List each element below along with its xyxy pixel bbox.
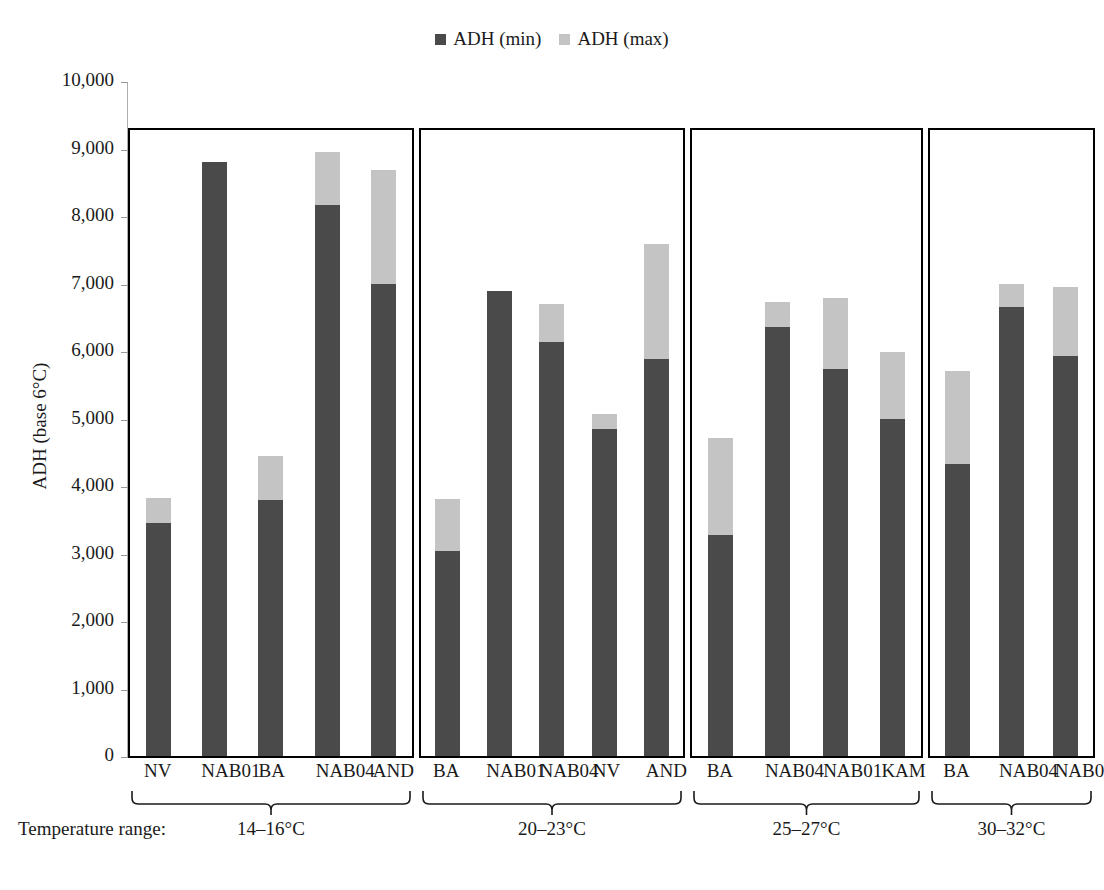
- bar-nab01[interactable]: [202, 162, 227, 756]
- bar-segment-adh-min: [146, 523, 171, 756]
- y-axis-tick-mark: [121, 622, 128, 623]
- y-axis-tick-label: 1,000: [71, 677, 114, 699]
- panel-category-labels: BANAB01NAB04NVAND: [419, 760, 685, 786]
- bar-segment-adh-min: [823, 369, 848, 756]
- y-axis-tick-mark: [121, 555, 128, 556]
- y-axis-tick-mark: [121, 82, 128, 83]
- bar-nab01[interactable]: [1053, 287, 1078, 756]
- x-axis-category-label: NAB01: [1055, 760, 1080, 782]
- temperature-range-caption: Temperature range:: [18, 818, 166, 840]
- bar-segment-adh-max: [539, 304, 564, 342]
- x-axis-category-label: BA: [258, 760, 283, 782]
- y-axis-tick-mark: [121, 352, 128, 353]
- x-axis-category-label: NAB04: [539, 760, 564, 782]
- bar-nab04[interactable]: [999, 284, 1024, 757]
- temperature-range-label: 14–16°C: [158, 818, 384, 840]
- x-axis-category-label: NV: [593, 760, 618, 782]
- y-axis-tick-label: 0: [105, 744, 115, 766]
- x-axis-category-label: NAB01: [201, 760, 226, 782]
- y-axis-tick-mark: [121, 285, 128, 286]
- bar-segment-adh-max: [945, 371, 970, 464]
- y-axis-tick-mark: [121, 150, 128, 151]
- chart-panel: [928, 128, 1095, 758]
- bar-and[interactable]: [644, 244, 669, 756]
- bar-segment-adh-max: [999, 284, 1024, 308]
- bar-segment-adh-max: [644, 244, 669, 359]
- bar-segment-adh-min: [765, 327, 790, 756]
- bar-segment-adh-max: [435, 499, 460, 552]
- bar-segment-adh-max: [258, 456, 283, 499]
- x-axis-category-label: AND: [373, 760, 398, 782]
- x-axis-category-label: BA: [707, 760, 732, 782]
- chart-panel: [128, 128, 414, 758]
- group-brace: [693, 790, 920, 816]
- bar-segment-adh-max: [146, 498, 171, 523]
- bar-kam[interactable]: [880, 352, 905, 756]
- bar-segment-adh-min: [487, 291, 512, 756]
- group-brace: [422, 790, 682, 816]
- bar-segment-adh-min: [539, 342, 564, 756]
- y-axis-tick-label: 5,000: [71, 407, 114, 429]
- panel-category-labels: BANAB04NAB01KAM: [690, 760, 923, 786]
- bar-segment-adh-min: [592, 429, 617, 756]
- bar-segment-adh-min: [371, 284, 396, 757]
- bar-and[interactable]: [371, 170, 396, 756]
- bar-segment-adh-max: [315, 152, 340, 205]
- group-brace: [131, 790, 411, 816]
- bar-segment-adh-min: [315, 205, 340, 756]
- y-axis-tick-label: 2,000: [71, 609, 114, 631]
- bar-segment-adh-min: [880, 419, 905, 757]
- bar-nab04[interactable]: [315, 152, 340, 756]
- x-axis-category-label: BA: [433, 760, 458, 782]
- bar-segment-adh-max: [592, 414, 617, 430]
- bar-ba[interactable]: [945, 371, 970, 756]
- panel-bars: [130, 130, 412, 756]
- y-axis-tick-label: 8,000: [71, 204, 114, 226]
- chart-panel: [690, 128, 923, 758]
- bar-segment-adh-min: [258, 500, 283, 757]
- bar-segment-adh-min: [435, 551, 460, 756]
- bar-nv[interactable]: [146, 498, 171, 756]
- panel-bars: [692, 130, 921, 756]
- y-axis-tick-label: 9,000: [71, 137, 114, 159]
- bar-segment-adh-max: [1053, 287, 1078, 356]
- y-axis-tick-label: 7,000: [71, 272, 114, 294]
- bar-nab04[interactable]: [765, 302, 790, 756]
- temperature-range-label: 30–32°C: [931, 818, 1092, 840]
- y-axis-tick-mark: [121, 690, 128, 691]
- y-axis-tick-mark: [121, 217, 128, 218]
- x-axis-category-label: NAB04: [999, 760, 1024, 782]
- x-axis-category-label: NAB01: [486, 760, 511, 782]
- y-axis-tick-label: 3,000: [71, 542, 114, 564]
- temperature-range-label: 20–23°C: [422, 818, 682, 840]
- bar-segment-adh-min: [945, 464, 970, 756]
- chart-plot-area: ADH (base 6°C) 10,0009,0008,0007,0006,00…: [0, 0, 1104, 890]
- bar-nab01[interactable]: [823, 298, 848, 756]
- bar-nv[interactable]: [592, 414, 617, 756]
- bar-ba[interactable]: [258, 456, 283, 756]
- x-axis-category-label: KAM: [881, 760, 906, 782]
- bar-segment-adh-min: [999, 307, 1024, 756]
- x-axis-category-label: NAB01: [823, 760, 848, 782]
- bar-segment-adh-max: [371, 170, 396, 283]
- y-axis-tick-label: 4,000: [71, 474, 114, 496]
- panel-category-labels: BANAB04NAB01: [928, 760, 1095, 786]
- bar-segment-adh-min: [1053, 356, 1078, 756]
- y-axis-tick-label: 6,000: [71, 339, 114, 361]
- bar-segment-adh-min: [202, 162, 227, 756]
- bar-segment-adh-max: [880, 352, 905, 418]
- bar-segment-adh-max: [708, 438, 733, 535]
- group-brace: [931, 790, 1092, 816]
- chart-panel: [419, 128, 685, 758]
- y-axis-tick-label: 10,000: [62, 69, 114, 91]
- bar-ba[interactable]: [708, 438, 733, 756]
- bar-nab04[interactable]: [539, 304, 564, 756]
- bar-segment-adh-max: [823, 298, 848, 368]
- x-axis-category-label: BA: [943, 760, 968, 782]
- y-axis-tick-mark: [121, 757, 128, 758]
- bar-segment-adh-max: [765, 302, 790, 327]
- x-axis-category-label: NV: [144, 760, 169, 782]
- bar-ba[interactable]: [435, 499, 460, 756]
- bar-nab01[interactable]: [487, 291, 512, 756]
- panel-bars: [930, 130, 1093, 756]
